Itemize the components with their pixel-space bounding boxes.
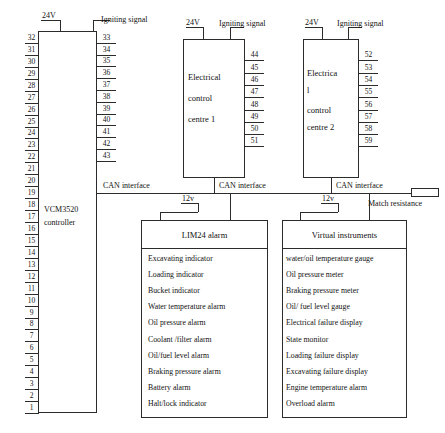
- pin-tick: [25, 138, 39, 139]
- lim24-12v-horizontal: [160, 212, 198, 213]
- lim24-item: Oil/fuel level alarm: [148, 351, 209, 360]
- pin-tick: [25, 174, 39, 175]
- lim24-item: Halt/lock indicator: [148, 399, 207, 408]
- lim24-12v-riser: [160, 212, 161, 220]
- lim24-can-drop-line: [230, 193, 231, 220]
- pin-number: 50: [246, 125, 263, 133]
- pin-number: 5: [24, 356, 39, 364]
- ecc2-24v-stub-horizontal: [305, 27, 323, 28]
- pin-number: 9: [24, 309, 39, 317]
- controller-24v-label: 24V: [42, 11, 56, 20]
- pin-number: 42: [98, 140, 115, 148]
- pin-number: 43: [98, 152, 115, 160]
- can-interface-label-2: CAN interface: [219, 181, 266, 190]
- virtual-instruments-item: Excavating failure display: [286, 367, 368, 376]
- lim24-header-separator: [141, 248, 268, 249]
- pin-tick: [25, 186, 39, 187]
- pin-tick: [25, 413, 39, 414]
- pin-tick: [97, 125, 116, 126]
- pin-number: 35: [98, 57, 115, 65]
- pin-tick: [359, 85, 378, 86]
- pin-number: 13: [24, 261, 39, 269]
- pin-tick: [25, 55, 39, 56]
- pin-tick: [25, 67, 39, 68]
- controller-ignition-stub-vertical: [93, 20, 94, 31]
- virtual-instruments-item: Oil/ fuel level gauge: [286, 302, 350, 311]
- pin-number: 19: [24, 189, 39, 197]
- lim24-item: Battery alarm: [148, 383, 191, 392]
- lim24-item: Coolant /filter alarm: [148, 335, 212, 344]
- electrical-control-centre-1-box: [183, 39, 245, 178]
- can-interface-label-1: CAN interface: [103, 181, 150, 190]
- ecc2-label-line-2: control: [307, 103, 331, 117]
- pin-number: 24: [24, 129, 39, 137]
- pin-number: 48: [246, 101, 263, 109]
- pin-number: 23: [24, 141, 39, 149]
- lim24-12v-stub-horizontal: [181, 203, 199, 204]
- pin-number: 26: [24, 106, 39, 114]
- pin-tick: [25, 79, 39, 80]
- ecc2-24v-stub-vertical: [322, 27, 323, 39]
- ecc2-can-drop-line: [331, 178, 332, 193]
- pin-tick: [25, 234, 39, 235]
- pin-number: 59: [360, 137, 377, 145]
- pin-tick: [97, 90, 116, 91]
- ecc1-label-line-1: control: [188, 91, 212, 105]
- ecc1-24v-stub-vertical: [203, 27, 204, 39]
- pin-tick: [97, 149, 116, 150]
- controller-ignition-label: Igniting signal: [101, 15, 147, 24]
- pin-number: 22: [24, 153, 39, 161]
- pin-number: 47: [246, 88, 263, 96]
- pin-tick: [25, 401, 39, 402]
- pin-tick: [25, 162, 39, 163]
- lim24-item: Excavating indicator: [148, 254, 213, 263]
- controller-name-line2: controller: [44, 217, 75, 229]
- pin-tick: [25, 365, 39, 366]
- can-interface-label-3: CAN interface: [336, 181, 383, 190]
- ecc1-ignition-stub-vertical: [230, 27, 231, 39]
- pin-tick: [25, 282, 39, 283]
- pin-number: 4: [24, 368, 39, 376]
- ecc1-can-drop-line: [214, 178, 215, 193]
- pin-number: 56: [360, 101, 377, 109]
- virtual-instruments-item: Oil pressure meter: [286, 270, 344, 279]
- pin-number: 34: [98, 46, 115, 54]
- lim24-item: Loading indicator: [148, 270, 204, 279]
- pin-number: 41: [98, 128, 115, 136]
- pin-number: 51: [246, 137, 263, 145]
- pin-tick: [359, 146, 378, 147]
- pin-tick: [359, 110, 378, 111]
- virtual-instruments-item: Braking pressure meter: [286, 286, 359, 295]
- pin-tick: [25, 210, 39, 211]
- ecc2-label-line-3: centre 2: [307, 120, 334, 134]
- virtual-instruments-item: Electrical failure display: [286, 318, 363, 327]
- ecc2-label-line-0: Electrica: [307, 66, 337, 80]
- pin-number: 2: [24, 392, 39, 400]
- ecc1-24v-label: 24V: [186, 18, 200, 27]
- pin-tick: [25, 329, 39, 330]
- pin-tick: [25, 341, 39, 342]
- pin-tick: [359, 73, 378, 74]
- pin-tick: [25, 43, 39, 44]
- pin-number: 36: [98, 69, 115, 77]
- lim24-item: Braking pressure alarm: [148, 367, 221, 376]
- pin-tick: [245, 134, 264, 135]
- vi-can-drop-line: [369, 193, 370, 220]
- lim24-header-label: LIM24 alarm: [141, 230, 268, 240]
- match-resistance-symbol: [411, 188, 439, 197]
- pin-number: 29: [24, 70, 39, 78]
- pin-number: 53: [360, 64, 377, 72]
- pin-tick: [245, 60, 264, 61]
- virtual-instruments-header-separator: [282, 248, 407, 249]
- ecc1-24v-stub-horizontal: [186, 27, 204, 28]
- pin-number: 30: [24, 58, 39, 66]
- pin-number: 18: [24, 201, 39, 209]
- virtual-instruments-header-label: Virtual instruments: [282, 230, 407, 240]
- pin-tick: [25, 270, 39, 271]
- lim24-item: Oil pressure alarm: [148, 318, 206, 327]
- pin-number: 44: [246, 51, 263, 59]
- pin-number: 33: [98, 34, 115, 42]
- pin-number: 21: [24, 165, 39, 173]
- pin-number: 55: [360, 88, 377, 96]
- pin-tick: [25, 353, 39, 354]
